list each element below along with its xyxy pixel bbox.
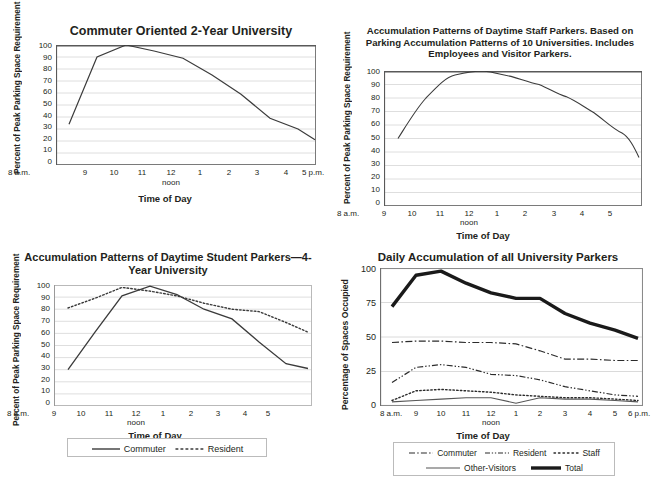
y-tick: 100 — [356, 67, 380, 76]
x-tick: 2 — [513, 209, 537, 218]
plot-svg — [384, 71, 642, 206]
legend-swatch-dotted — [175, 445, 205, 453]
legend-swatch-thick — [530, 464, 562, 472]
y-tick: 30 — [28, 122, 52, 131]
x-tick: 4 — [233, 409, 257, 418]
legend-item-staff[interactable]: Staff — [553, 448, 599, 458]
legend-item-commuter[interactable]: Commuter — [408, 448, 477, 458]
x-tick: 3 — [542, 209, 566, 218]
y-tick: 10 — [356, 185, 380, 194]
y-axis-label-staff-parkers: Percent of Peak Parking Space Requiremen… — [343, 66, 357, 204]
x-tick: 2 — [528, 409, 552, 418]
legend-label: Total — [565, 463, 583, 473]
x-tick: 9 — [404, 409, 428, 418]
y-tick: 0 — [356, 198, 380, 207]
legend-item-resident[interactable]: Resident — [484, 448, 547, 458]
x-tick: 2 — [217, 168, 241, 177]
y-tick: 0 — [28, 157, 52, 166]
y-axis-label-student-4-year: Percent of Peak Parking Space Requiremen… — [12, 276, 26, 426]
y-tick: 40 — [356, 146, 380, 155]
x-tick: 12 — [479, 409, 503, 418]
y-tick: 80 — [28, 64, 52, 73]
y-tick: 30 — [26, 363, 50, 372]
x-tick: 4 — [578, 409, 602, 418]
chart-panel-commuter-2-year: Commuter Oriented 2-Year University Perc… — [0, 0, 330, 240]
plot-area-staff-parkers — [384, 71, 642, 206]
x-tick: 10 — [69, 409, 93, 418]
x-tick: 12 — [124, 409, 148, 418]
y-tick: 50 — [26, 340, 50, 349]
legend-item-resident[interactable]: Resident — [175, 444, 244, 454]
plot-area-daily-all-parkers — [380, 268, 643, 406]
x-tick: 11 — [428, 209, 452, 218]
y-tick: 0 — [26, 398, 50, 407]
chart-panel-staff-parkers: Accumulation Patterns of Daytime Staff P… — [330, 0, 656, 240]
y-tick: 90 — [28, 53, 52, 62]
y-axis-label-commuter-2-year: Percent of Peak Parking Space Requiremen… — [13, 38, 27, 174]
legend-swatch-dash-dot — [408, 449, 434, 457]
x-tick: 5 p.m. — [292, 168, 334, 177]
x-tick: 4 — [570, 209, 594, 218]
x-tick: 2 — [179, 409, 203, 418]
legend-item-commuter[interactable]: Commuter — [91, 444, 166, 454]
legend-label: Commuter — [437, 448, 477, 458]
y-tick: 70 — [356, 106, 380, 115]
legend-label: Staff — [582, 448, 599, 458]
legend-item-total[interactable]: Total — [530, 463, 583, 473]
y-tick: 70 — [28, 76, 52, 85]
chart-panel-student-4-year: Accumulation Patterns of Daytime Student… — [0, 240, 330, 481]
x-tick: 6 p.m. — [618, 409, 656, 418]
chart-title-daily-all-parkers: Daily Accumulation of all University Par… — [352, 250, 644, 264]
x-tick: 1 — [485, 209, 509, 218]
x-tick: 3 — [245, 168, 269, 177]
x-tick: 1 — [504, 409, 528, 418]
y-tick: 80 — [26, 304, 50, 313]
x-tick: 8 a.m. — [324, 209, 372, 218]
x-tick: 8 a.m. — [0, 409, 42, 418]
y-tick: 40 — [26, 351, 50, 360]
plot-svg — [380, 268, 643, 406]
chart-title-staff-parkers: Accumulation Patterns of Daytime Staff P… — [356, 25, 644, 60]
x-axis-label-commuter-2-year: Time of Day — [0, 193, 330, 204]
legend-swatch-dotted — [553, 449, 579, 457]
noon-note: noon — [479, 418, 503, 427]
y-tick: 90 — [356, 80, 380, 89]
chart-title-student-4-year: Accumulation Patterns of Daytime Student… — [22, 251, 314, 278]
y-tick: 20 — [28, 134, 52, 143]
x-tick: 9 — [42, 409, 66, 418]
y-tick: 80 — [356, 93, 380, 102]
y-tick: 60 — [26, 328, 50, 337]
x-tick: 9 — [372, 209, 396, 218]
y-tick: 50 — [28, 99, 52, 108]
x-tick: 11 — [130, 168, 154, 177]
legend-swatch-solid — [91, 445, 121, 453]
x-tick: 12 — [159, 168, 183, 177]
y-tick: 100 — [26, 281, 50, 290]
chart-title-commuter-2-year: Commuter Oriented 2-Year University — [46, 24, 316, 39]
x-tick: 10 — [102, 168, 126, 177]
x-tick: 12 — [457, 209, 481, 218]
y-tick: 60 — [28, 87, 52, 96]
legend-swatch-solid-thin — [425, 464, 461, 472]
legend-label: Other-Visitors — [464, 463, 516, 473]
x-tick: 10 — [429, 409, 453, 418]
y-tick: 100 — [352, 264, 376, 274]
x-axis-label-daily-all-parkers: Time of Day — [320, 430, 646, 441]
y-tick: 30 — [356, 159, 380, 168]
x-tick: 11 — [454, 409, 478, 418]
noon-note: noon — [124, 418, 148, 427]
legend-item-other-visitors[interactable]: Other-Visitors — [425, 463, 516, 473]
plot-area-commuter-2-year — [56, 45, 316, 165]
legend-daily-all-parkers: Commuter Resident Staff Other-Visitor — [393, 442, 615, 476]
plot-area-student-4-year — [54, 285, 312, 406]
y-tick: 10 — [26, 386, 50, 395]
y-tick: 50 — [352, 332, 376, 342]
noon-note: noon — [159, 178, 183, 187]
y-axis-label-daily-all-parkers: Percentage of Spaces Occupied — [340, 275, 354, 415]
y-tick: 70 — [26, 316, 50, 325]
y-tick: 100 — [28, 41, 52, 50]
legend-label: Resident — [513, 448, 547, 458]
x-tick: 3 — [206, 409, 230, 418]
legend-swatch-dash-dot-dot — [484, 449, 510, 457]
y-tick: 60 — [356, 119, 380, 128]
